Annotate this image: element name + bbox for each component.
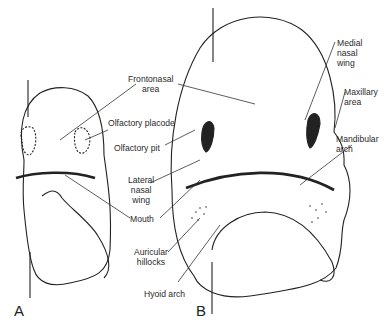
label-mandibular-arch: Mandibular arch bbox=[336, 134, 379, 154]
label-frontonasal-area: Frontonasal area bbox=[128, 74, 173, 94]
panel-label-a: A bbox=[14, 302, 24, 319]
label-lateral-nasal-wing: Lateral nasal wing bbox=[128, 175, 154, 205]
auricular-hillock-stipple bbox=[191, 203, 327, 223]
embryo-a-mouth-line bbox=[16, 173, 95, 178]
embryo-a-olfactory-placode-right bbox=[74, 128, 90, 153]
label-olfactory-placode: Olfactory placode bbox=[108, 118, 175, 128]
embryo-face-illustration bbox=[0, 0, 389, 323]
embryo-b-stomodeum-outline bbox=[212, 212, 334, 281]
embryo-b-olfactory-pit-right bbox=[307, 114, 320, 148]
label-medial-nasal-wing: Medial nasal wing bbox=[337, 38, 362, 68]
embryo-a-head-outline bbox=[21, 88, 110, 285]
embryo-a-stomodeum-outline bbox=[42, 191, 109, 278]
label-auricular-hillocks: Auricular hillocks bbox=[134, 247, 168, 267]
embryo-a-olfactory-placode-left bbox=[21, 127, 36, 155]
label-mouth: Mouth bbox=[130, 214, 154, 224]
embryo-b-olfactory-pit-left bbox=[202, 122, 214, 152]
label-hyoid-arch: Hyoid arch bbox=[144, 289, 185, 299]
label-maxillary-area: Maxillary area bbox=[344, 87, 378, 107]
label-olfactory-pit: Olfactory pit bbox=[114, 143, 160, 153]
panel-label-b: B bbox=[196, 302, 206, 319]
